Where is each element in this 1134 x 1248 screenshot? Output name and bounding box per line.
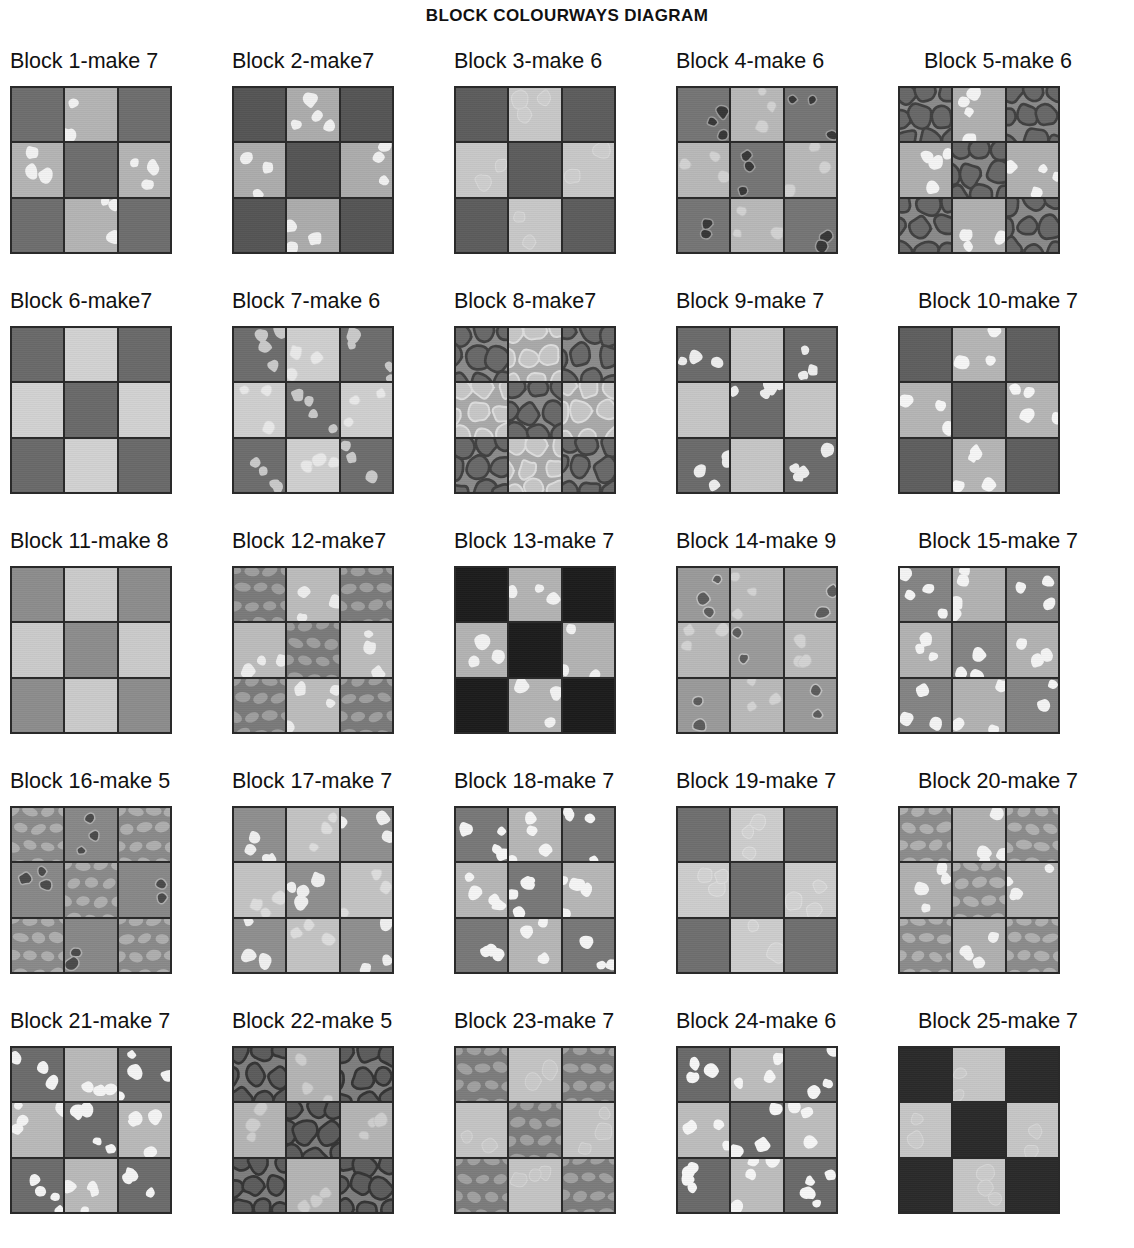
patch-light (65, 328, 116, 381)
patch-light (234, 1103, 285, 1156)
patch-light (1007, 623, 1058, 676)
patch-light (509, 1048, 560, 1101)
patch-light (509, 568, 560, 621)
patch-light (563, 1103, 614, 1156)
block-label: Block 12-make7 (232, 524, 432, 558)
patch-dark (341, 199, 392, 252)
patch-dark (119, 1159, 170, 1212)
patch-light (287, 808, 338, 861)
patch-light (119, 863, 170, 916)
patch-light (287, 199, 338, 252)
patch-light (953, 328, 1004, 381)
block-cell: Block 11-make 8 (10, 524, 232, 764)
patch-light (731, 1159, 782, 1212)
block-label: Block 13-make 7 (454, 524, 654, 558)
patch-dark (287, 623, 338, 676)
patch-light (509, 808, 560, 861)
patch-dark (563, 1048, 614, 1101)
patch-dark (785, 679, 836, 732)
patch-light (1007, 863, 1058, 916)
patch-dark (65, 143, 116, 196)
patch-dark (12, 88, 63, 141)
patch-dark (119, 1048, 170, 1101)
patch-dark (785, 568, 836, 621)
patch-light (287, 568, 338, 621)
patch-light (65, 439, 116, 492)
patch-dark (287, 863, 338, 916)
block-cell: Block 6-make7 (10, 284, 232, 524)
patch-dark (119, 568, 170, 621)
block-label: Block 9-make 7 (676, 284, 876, 318)
patch-light (563, 863, 614, 916)
nine-patch-grid (454, 806, 616, 974)
patch-dark (12, 808, 63, 861)
patch-light (12, 863, 63, 916)
patch-dark (287, 383, 338, 436)
patch-dark (456, 328, 507, 381)
patch-dark (234, 1159, 285, 1212)
patch-light (900, 623, 951, 676)
patch-light (731, 919, 782, 972)
patch-dark (65, 623, 116, 676)
nine-patch-grid (898, 566, 1060, 734)
patch-light (341, 383, 392, 436)
patch-dark (341, 568, 392, 621)
patch-light (341, 1103, 392, 1156)
patch-light (731, 439, 782, 492)
patch-dark (287, 1103, 338, 1156)
nine-patch-grid (454, 1046, 616, 1214)
patch-dark (678, 439, 729, 492)
patch-dark (456, 199, 507, 252)
block-cell: Block 24-make 6 (676, 1004, 898, 1244)
patch-dark (234, 679, 285, 732)
patch-dark (900, 568, 951, 621)
patch-light (65, 88, 116, 141)
patch-dark (341, 1159, 392, 1212)
patch-dark (234, 88, 285, 141)
patch-dark (1007, 1048, 1058, 1101)
nine-patch-grid (10, 806, 172, 974)
nine-patch-grid (454, 326, 616, 494)
patch-dark (341, 328, 392, 381)
patch-light (456, 143, 507, 196)
patch-dark (563, 328, 614, 381)
patch-dark (12, 439, 63, 492)
block-label: Block 4-make 6 (676, 44, 876, 78)
patch-light (678, 1103, 729, 1156)
patch-light (65, 679, 116, 732)
patch-dark (1007, 88, 1058, 141)
block-label: Block 6-make7 (10, 284, 210, 318)
patch-dark (119, 808, 170, 861)
patch-dark (785, 328, 836, 381)
patch-dark (234, 568, 285, 621)
patch-light (953, 1048, 1004, 1101)
patch-dark (563, 919, 614, 972)
patch-dark (12, 328, 63, 381)
patch-dark (785, 919, 836, 972)
patch-dark (900, 439, 951, 492)
patch-light (509, 328, 560, 381)
patch-dark (341, 88, 392, 141)
patch-light (287, 88, 338, 141)
patch-dark (12, 568, 63, 621)
patch-light (234, 383, 285, 436)
nine-patch-grid (676, 326, 838, 494)
nine-patch-grid (676, 566, 838, 734)
nine-patch-grid (232, 566, 394, 734)
nine-patch-grid (898, 1046, 1060, 1214)
patch-dark (900, 919, 951, 972)
patch-dark (12, 1048, 63, 1101)
patch-dark (731, 623, 782, 676)
patch-light (12, 143, 63, 196)
patch-dark (1007, 328, 1058, 381)
nine-patch-grid (232, 86, 394, 254)
patch-light (456, 863, 507, 916)
block-label: Block 19-make 7 (676, 764, 876, 798)
patch-light (287, 919, 338, 972)
patch-dark (678, 1159, 729, 1212)
block-label: Block 21-make 7 (10, 1004, 210, 1038)
patch-dark (953, 623, 1004, 676)
patch-dark (12, 679, 63, 732)
patch-dark (509, 863, 560, 916)
patch-dark (563, 1159, 614, 1212)
